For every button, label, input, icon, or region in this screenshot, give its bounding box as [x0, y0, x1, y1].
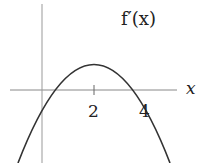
function-label: f′(x): [121, 10, 156, 28]
tick-label-2: 2: [88, 103, 99, 120]
x-axis-label: x: [186, 80, 196, 97]
derivative-graph: f′(x) x 2 4: [0, 0, 199, 163]
tick-label-4: 4: [139, 103, 150, 120]
graph-canvas: [0, 0, 199, 163]
